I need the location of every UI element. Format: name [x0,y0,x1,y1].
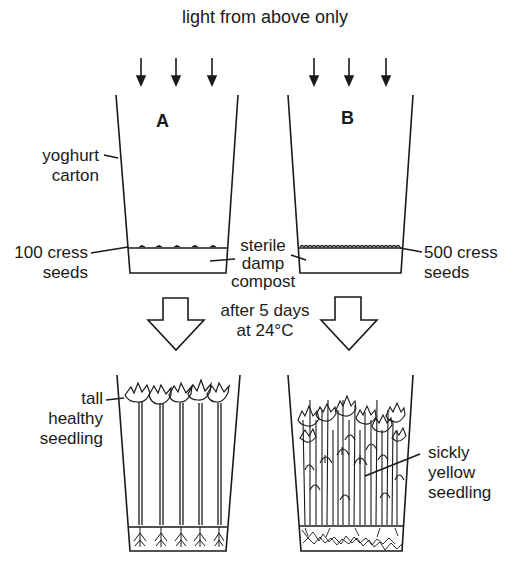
carton-a-label: A [156,111,169,131]
seeds-b [300,246,400,248]
healthy-seedling-label-3: seedling [0,429,103,449]
seeds-b-label-1: 500 cress [424,243,498,263]
result-arrow-a [148,298,204,350]
title-light-from-above: light from above only [150,7,380,27]
compost-label-2: damp [228,254,298,274]
carton-b-result [288,375,420,551]
seeds-a-label-2: seeds [0,263,88,283]
result-arrow-b [321,297,377,350]
carton-b [288,95,422,273]
sickly-seedling-label-1: sickly [428,443,470,463]
seeds-a [139,246,216,248]
yoghurt-carton-label-2: carton [0,166,99,186]
compost-label-1: sterile [228,236,298,256]
carton-b-label: B [341,108,354,128]
condition-label-2: at 24°C [205,321,325,341]
yoghurt-carton-label-1: yoghurt [0,146,99,166]
healthy-seedling-label-2: healthy [0,409,103,429]
seeds-a-label-1: 100 cress [0,243,88,263]
compost-label-3: compost [226,272,300,292]
seeds-b-label-2: seeds [424,263,469,283]
healthy-seedling-label-1: tall [0,389,103,409]
condition-label-1: after 5 days [205,301,325,321]
carton-a-result [106,375,240,551]
sickly-seedling-label-2: yellow [428,463,475,483]
light-arrows-a [137,58,216,85]
sickly-seedling-label-3: seedling [428,483,491,503]
light-arrows-b [310,58,390,85]
